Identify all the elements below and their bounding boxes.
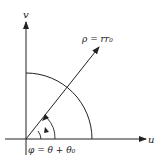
theta-arc-arrow-icon: [44, 127, 49, 133]
rho-label: ρ = rr₀: [81, 34, 113, 44]
theta-angle-arc: [38, 131, 41, 139]
quarter-circle-arc: [26, 73, 92, 139]
theta0-angle-arc: [47, 118, 55, 139]
phi-label: φ = θ + θ₀: [28, 145, 76, 155]
polar-diagram: v u ρ = rr₀ φ = θ + θ₀: [0, 0, 162, 161]
v-axis-label: v: [23, 9, 29, 20]
rho-ray: [26, 47, 99, 139]
u-axis-label: u: [148, 134, 154, 145]
